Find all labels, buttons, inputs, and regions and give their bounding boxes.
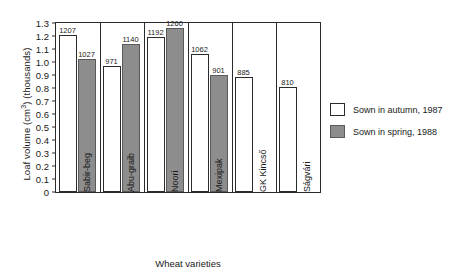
bar-value-label: 1140 [122, 35, 138, 44]
bar-autumn-2: 1192 [147, 37, 165, 192]
y-axis-tick-label: 0.1 [9, 174, 56, 185]
y-axis-tick-label: 0.9 [9, 70, 56, 81]
y-axis-tick-mark [52, 166, 56, 167]
y-axis-tick-label: 1.2 [9, 31, 56, 42]
category-separator [276, 23, 277, 192]
bar-chart-figure: Loaf volume (cm3) (thousands) 1.31.21.11… [0, 0, 468, 277]
legend-item-spring: Sown in spring, 1988 [330, 125, 443, 138]
y-axis-tick-mark [52, 75, 56, 76]
plot-area: 1.31.21.11.00.90.80.70.60.50.40.30.20.10… [55, 22, 321, 193]
x-axis-label-1: Abu-graib [126, 153, 136, 192]
y-axis-tick-mark [52, 153, 56, 154]
bar-autumn-0: 1207 [59, 35, 77, 192]
bar-value-label: 1207 [59, 26, 76, 35]
y-axis-tick-label: 0.8 [9, 83, 56, 94]
x-axis-label-5: Ságvári [302, 161, 312, 192]
y-axis-tick-mark [52, 101, 56, 102]
bar-autumn-5: 810 [279, 87, 297, 192]
bar-value-label: 810 [281, 78, 294, 87]
y-axis-tick-label: 0.5 [9, 122, 56, 133]
chart-legend: Sown in autumn, 1987Sown in spring, 1988 [330, 103, 443, 147]
x-axis-label-3: Mexipak [214, 158, 224, 192]
y-axis-tick-label: 0.3 [9, 148, 56, 159]
y-axis-tick-mark [52, 192, 56, 193]
bar-spring-2: 1260 [166, 28, 184, 192]
bar-value-label: 971 [105, 57, 118, 66]
bar-value-label: 885 [237, 68, 250, 77]
y-axis-tick-label: 0.7 [9, 96, 56, 107]
category-separator [100, 23, 101, 192]
y-axis-tick-mark [52, 49, 56, 50]
bar-value-label: 1260 [166, 19, 183, 28]
y-axis-tick-mark [52, 114, 56, 115]
bar-autumn-1: 971 [103, 66, 121, 192]
y-axis-tick-mark [52, 140, 56, 141]
y-axis-tick-label: 1.0 [9, 57, 56, 68]
y-axis-tick-label: 0.2 [9, 161, 56, 172]
y-axis-tick-label: 0 [9, 187, 56, 198]
category-separator [232, 23, 233, 192]
legend-label: Sown in autumn, 1987 [353, 105, 443, 115]
y-axis-tick-label: 1.1 [9, 44, 56, 55]
bar-autumn-3: 1062 [191, 54, 209, 192]
y-axis-tick-mark [52, 36, 56, 37]
category-separator [188, 23, 189, 192]
bar-autumn-4: 885 [235, 77, 253, 192]
y-axis-tick-label: 0.4 [9, 135, 56, 146]
bar-value-label: 901 [212, 66, 225, 75]
x-axis-label-0: Sabir-beg [82, 153, 92, 192]
bar-value-label: 1192 [147, 28, 163, 37]
x-axis-label-2: Noori [170, 170, 180, 192]
y-axis-tick-label: 1.3 [9, 18, 56, 29]
legend-swatch [330, 125, 345, 138]
y-axis-tick-mark [52, 179, 56, 180]
y-axis-tick-mark [52, 127, 56, 128]
y-axis-tick-mark [52, 62, 56, 63]
category-separator [144, 23, 145, 192]
bar-value-label: 1062 [191, 45, 208, 54]
legend-swatch [330, 103, 345, 116]
x-axis-label-4: GK Kincső [258, 149, 268, 192]
y-axis-tick-mark [52, 23, 56, 24]
x-axis-title: Wheat varieties [55, 258, 321, 269]
y-axis-tick-mark [52, 88, 56, 89]
legend-item-autumn: Sown in autumn, 1987 [330, 103, 443, 116]
y-axis-tick-label: 0.6 [9, 109, 56, 120]
bar-value-label: 1027 [78, 50, 95, 59]
legend-label: Sown in spring, 1988 [353, 127, 437, 137]
